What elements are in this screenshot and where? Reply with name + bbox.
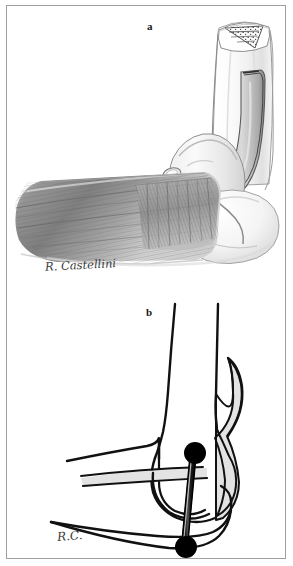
panel-a-illustration [7,6,285,296]
marker-distal[interactable] [175,536,197,558]
panel-a-label: a [147,20,153,32]
figure-root: a R. Castellini [0,0,293,566]
panel-b-illustration [7,296,285,560]
panel-b-signature: R.C. [56,528,83,544]
radius-ulna-outline [67,438,207,486]
panel-a: a R. Castellini [7,6,285,296]
figure-frame: a R. Castellini [6,5,286,559]
marker-proximal[interactable] [184,442,206,464]
panel-b: b R.C. [7,296,285,560]
bone-cut-cross-section [218,23,269,52]
panel-b-label: b [146,306,152,318]
